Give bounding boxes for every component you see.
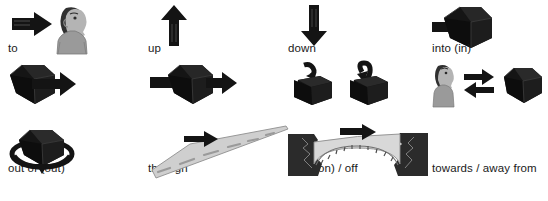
label-down: down xyxy=(288,42,316,55)
label-to: to xyxy=(8,42,18,55)
road-along-icon xyxy=(148,122,290,180)
arrow-out-of-cube-icon xyxy=(8,62,80,108)
person-arrows-cube-icon xyxy=(432,62,544,108)
arrow-onto-off-cubes-icon xyxy=(288,62,398,108)
bridge-across-icon xyxy=(288,124,428,178)
arrow-right-to-person-icon xyxy=(8,4,100,54)
prepositions-diagram: to up down xyxy=(0,0,548,201)
label-into: into (in) xyxy=(432,42,471,55)
label-up: up xyxy=(148,42,161,55)
label-towards-away: towards / away from xyxy=(432,162,537,175)
arrow-through-cube-icon xyxy=(148,62,240,108)
arrow-around-cube-icon xyxy=(8,128,84,176)
